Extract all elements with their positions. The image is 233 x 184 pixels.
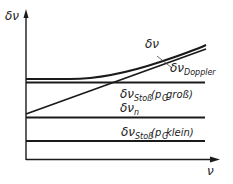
label-doppler-symbol: δν — [170, 61, 184, 75]
label-stoss-gross-symbol: δν — [120, 87, 134, 101]
label-doppler: δν Doppler — [170, 61, 216, 77]
label-stoss-klein-symbol: δν — [121, 125, 135, 139]
label-stoss-gross-note: (p — [151, 89, 161, 100]
x-axis-label: ν — [207, 164, 214, 178]
label-stoss-klein: δν Stoß (p G klein) — [121, 125, 194, 141]
label-natural-symbol: δν — [120, 101, 134, 115]
y-axis-arrow-icon — [24, 9, 29, 18]
curve-doppler — [26, 49, 206, 114]
label-total-symbol: δν — [145, 37, 159, 51]
linewidth-diagram: δν ν δν δν Doppler δν Stoß (p G groß) δν… — [0, 0, 233, 184]
label-natural-subscript: n — [134, 108, 139, 117]
label-stoss-klein-note: (p — [151, 127, 161, 138]
x-axis-arrow-icon — [210, 157, 220, 163]
label-stoss-gross-note-rest: groß) — [166, 89, 193, 100]
label-stoss-gross-subscript: Stoß — [134, 94, 152, 103]
y-axis-label: δν — [5, 9, 19, 23]
label-natural: δν n — [120, 101, 139, 117]
label-doppler-subscript: Doppler — [184, 68, 216, 77]
label-total: δν — [145, 37, 159, 51]
label-stoss-klein-note-rest: klein) — [166, 127, 194, 138]
